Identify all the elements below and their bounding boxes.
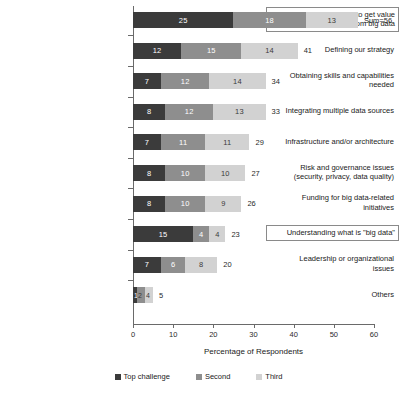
segment-second[interactable]: 18: [233, 12, 305, 28]
legend-swatch-second-icon: [196, 374, 202, 380]
segment-top-challenge[interactable]: 12: [133, 43, 181, 59]
segment-value-label: 2: [138, 287, 142, 303]
segment-second[interactable]: 15: [181, 43, 241, 59]
x-axis-title-text: Percentage of Respondents: [94, 347, 303, 356]
segment-top-challenge[interactable]: 8: [133, 196, 165, 212]
bar-total-label: 5: [159, 287, 163, 303]
x-tick: [334, 324, 335, 328]
bar-row: 154423: [0, 226, 397, 242]
bar-row: 1245: [0, 287, 397, 303]
x-tick-label: 30: [244, 330, 264, 339]
x-tick-label: 10: [163, 330, 183, 339]
segment-top-challenge[interactable]: 25: [133, 12, 233, 28]
x-tick-label: 0: [123, 330, 143, 339]
x-tick: [133, 324, 134, 328]
x-tick-label: 20: [203, 330, 223, 339]
bar-row: 12151441: [0, 43, 397, 59]
bar-total-label: 27: [251, 165, 259, 181]
x-tick: [254, 324, 255, 328]
y-tick: [128, 66, 133, 67]
segment-third[interactable]: 14: [241, 43, 297, 59]
y-tick: [128, 158, 133, 159]
segment-top-challenge[interactable]: 7: [133, 257, 161, 273]
bar-row: 810926: [0, 196, 397, 212]
legend-swatch-top-challenge-icon: [115, 374, 121, 380]
x-tick-label: 60: [364, 330, 384, 339]
y-tick: [128, 219, 133, 220]
segment-second[interactable]: 10: [165, 196, 205, 212]
segment-third[interactable]: 10: [205, 165, 245, 181]
bar-total-label: 20: [223, 257, 231, 273]
bar-total-label: 29: [255, 134, 263, 150]
segment-second[interactable]: 4: [193, 226, 209, 242]
x-tick: [294, 324, 295, 328]
y-tick: [128, 188, 133, 189]
bar-total-label: 23: [231, 226, 239, 242]
segment-third[interactable]: 4: [209, 226, 225, 242]
segment-top-challenge[interactable]: 15: [133, 226, 193, 242]
segment-top-challenge[interactable]: 8: [133, 165, 165, 181]
bar-total-label: Sum=56: [364, 12, 392, 28]
x-axis-title: Percentage of Respondents: [0, 347, 397, 356]
y-tick: [128, 127, 133, 128]
bar-row: 251813Sum=56: [0, 12, 397, 28]
bar-total-label: 34: [272, 73, 280, 89]
x-tick: [213, 324, 214, 328]
bar-row: 7111129: [0, 134, 397, 150]
legend-swatch-third-icon: [256, 374, 262, 380]
y-tick: [128, 250, 133, 251]
segment-top-challenge[interactable]: 7: [133, 73, 161, 89]
bar-row: 76820: [0, 257, 397, 273]
segment-top-challenge[interactable]: 7: [133, 134, 161, 150]
segment-second[interactable]: 12: [161, 73, 209, 89]
segment-third[interactable]: 9: [205, 196, 241, 212]
chart-legend: Top challenge Second Third: [0, 372, 397, 381]
legend-item-third[interactable]: Third: [256, 372, 282, 381]
segment-value-label: 4: [146, 287, 150, 303]
y-tick: [128, 35, 133, 36]
segment-second[interactable]: 6: [161, 257, 185, 273]
segment-second[interactable]: 10: [165, 165, 205, 181]
segment-third[interactable]: 13: [213, 104, 265, 120]
segment-third[interactable]: 8: [185, 257, 217, 273]
x-tick-label: 40: [284, 330, 304, 339]
x-tick: [173, 324, 174, 328]
x-tick: [374, 324, 375, 328]
bar-total-label: 41: [304, 43, 312, 59]
bar-total-label: 26: [247, 196, 255, 212]
segment-third[interactable]: 14: [209, 73, 265, 89]
segment-third[interactable]: 11: [205, 134, 249, 150]
segment-top-challenge[interactable]: 8: [133, 104, 165, 120]
legend-label-second: Second: [205, 372, 230, 381]
segment-second[interactable]: 12: [165, 104, 213, 120]
bar-row: 8101027: [0, 165, 397, 181]
y-tick: [128, 97, 133, 98]
legend-item-second[interactable]: Second: [196, 372, 230, 381]
bar-total-label: 33: [272, 104, 280, 120]
legend-label-top-challenge: Top challenge: [124, 372, 170, 381]
bar-row: 8121333: [0, 104, 397, 120]
legend-label-third: Third: [265, 372, 282, 381]
bar-row: 7121434: [0, 73, 397, 89]
segment-third[interactable]: 13: [306, 12, 358, 28]
x-tick-label: 50: [324, 330, 344, 339]
legend-item-top-challenge[interactable]: Top challenge: [115, 372, 170, 381]
segment-second[interactable]: 11: [161, 134, 205, 150]
y-tick: [128, 280, 133, 281]
